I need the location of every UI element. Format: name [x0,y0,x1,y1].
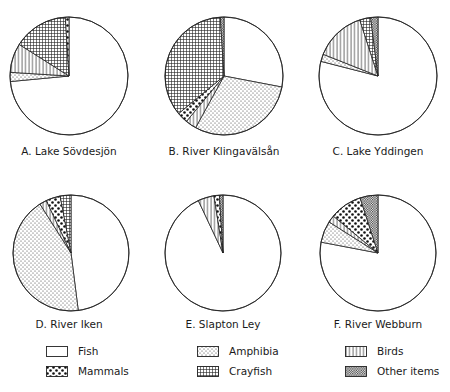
legend-label: Crayfish [229,365,272,377]
pie-chart-b [165,17,283,135]
amphibia-swatch-icon [197,346,219,357]
fish-swatch-icon [46,346,68,357]
pie-title-c: C. Lake Yddingen [303,145,450,157]
crayfish-swatch-icon [197,366,219,377]
pie-title-d: D. River Iken [0,318,144,330]
legend-item-other: Other items [345,364,439,378]
legend-item-amphibia: Amphibia [197,344,279,358]
legend-label: Birds [377,345,403,357]
legend-label: Amphibia [229,345,279,357]
pie-chart-a [10,17,128,135]
mammals-swatch-icon [46,366,68,377]
pie-slice-fish [71,195,129,311]
legend-label: Mammals [78,365,129,377]
other-items-swatch-icon [345,366,367,377]
legend-label: Fish [78,345,98,357]
legend-item-birds: Birds [345,344,403,358]
legend-item-crayfish: Crayfish [197,364,272,378]
pie-slice-fish [224,17,283,87]
pie-title-e: E. Slapton Ley [148,318,298,330]
birds-swatch-icon [345,346,367,357]
legend: Fish Amphibia Birds Mammals Crayfish Oth… [0,342,450,392]
pie-title-a: A. Lake Sövdesjön [0,145,144,157]
pie-title-f: F. River Webburn [303,318,450,330]
pie-charts-figure [0,0,450,392]
legend-item-mammals: Mammals [46,364,129,378]
pie-title-b: B. River Klingavälsån [149,145,299,157]
pie-chart-e [165,195,281,311]
pie-chart-d [13,195,129,311]
legend-item-fish: Fish [46,344,98,358]
legend-label: Other items [377,365,439,377]
pie-chart-c [319,17,437,135]
pie-chart-f [320,195,436,311]
